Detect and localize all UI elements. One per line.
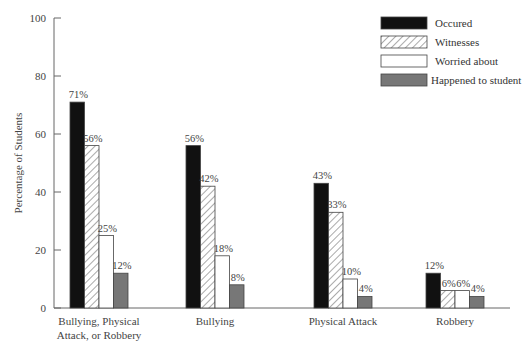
value-label: 8% [231, 272, 245, 283]
legend-swatch [381, 55, 427, 67]
value-label: 10% [342, 266, 362, 277]
bar [426, 273, 441, 308]
y-tick-label: 20 [35, 244, 47, 256]
bar [215, 256, 230, 308]
legend-swatch [381, 36, 427, 48]
category-label: Bullying, Physical [58, 315, 139, 327]
value-label: 4% [471, 283, 485, 294]
bar-chart: 020406080100Percentage of Students 71%56… [0, 0, 527, 351]
bars: 71%56%25%12%Bullying, PhysicalAttack, or… [57, 89, 485, 341]
value-label: 56% [185, 133, 205, 144]
value-label: 12% [425, 260, 445, 271]
y-tick-label: 40 [35, 186, 47, 198]
value-label: 71% [69, 89, 89, 100]
value-label: 12% [112, 260, 132, 271]
legend-label: Worried about [435, 55, 498, 67]
legend-label: Occured [435, 17, 473, 29]
legend: OccuredWitnessesWorried aboutHappened to… [381, 17, 521, 86]
value-label: 18% [214, 243, 234, 254]
value-label: 6% [456, 278, 470, 289]
bar [441, 291, 456, 308]
bar [114, 273, 129, 308]
value-label: 56% [83, 133, 103, 144]
bar [343, 279, 358, 308]
bar [186, 146, 201, 308]
value-label: 33% [327, 199, 347, 210]
category-label: Bullying [196, 315, 235, 327]
bar [455, 291, 470, 308]
category-label: Robbery [436, 315, 474, 327]
bar [230, 285, 245, 308]
bar [470, 296, 485, 308]
y-axis-label: Percentage of Students [12, 113, 24, 214]
legend-label: Witnesses [435, 36, 479, 48]
value-label: 25% [98, 223, 118, 234]
value-label: 6% [442, 278, 456, 289]
bar [358, 296, 373, 308]
category-label: Attack, or Robbery [57, 329, 142, 341]
bar [329, 212, 344, 308]
y-tick-label: 80 [35, 70, 47, 82]
y-tick-label: 60 [35, 128, 47, 140]
legend-label: Happened to student [431, 74, 521, 86]
bar [99, 236, 114, 309]
value-label: 42% [199, 173, 219, 184]
value-label: 43% [313, 170, 333, 181]
category-label: Physical Attack [309, 315, 378, 327]
legend-swatch [381, 17, 427, 29]
value-label: 4% [359, 283, 373, 294]
y-tick-label: 0 [41, 302, 47, 314]
legend-swatch [381, 74, 427, 86]
y-tick-label: 100 [30, 12, 47, 24]
